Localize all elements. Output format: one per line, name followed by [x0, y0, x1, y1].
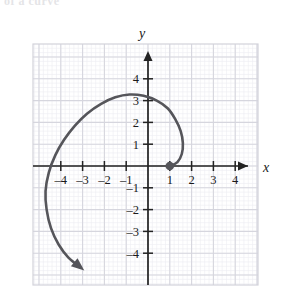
y-tick-label: –4: [126, 247, 140, 261]
x-axis-label: x: [262, 160, 270, 175]
y-axis-label: y: [137, 26, 146, 41]
x-tick-label: 3: [210, 173, 216, 187]
x-tick-label: –2: [97, 173, 111, 187]
coordinate-plane-svg: –4–3–2–112344321–1–2–3–4 x y: [0, 0, 282, 295]
y-tick-label: 1: [133, 138, 139, 152]
graph-figure: of a curve –4–3–2–112344321–1–2–3–4: [0, 0, 282, 295]
x-tick-label: 1: [167, 173, 173, 187]
y-tick-label: –1: [126, 181, 140, 195]
y-tick-label: –2: [126, 203, 140, 217]
x-tick-label: 2: [188, 173, 194, 187]
y-tick-label: 4: [133, 72, 140, 86]
y-tick-label: 3: [133, 94, 139, 108]
curve-start-point-dot: [166, 162, 175, 171]
x-tick-label: 4: [232, 173, 239, 187]
x-tick-label: –3: [75, 173, 89, 187]
cropped-header-text: of a curve: [4, 0, 60, 9]
x-tick-label: –4: [54, 173, 68, 187]
y-tick-label: –3: [126, 225, 140, 239]
y-tick-label: 2: [133, 116, 139, 130]
